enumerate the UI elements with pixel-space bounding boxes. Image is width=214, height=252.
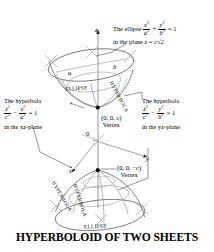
callout-ellipse-lead: The ellipse [113, 25, 141, 32]
ellipse-term-1: x2 a2 [143, 22, 150, 36]
callout-ellipse-plane-eq: z = c√2 [144, 38, 164, 45]
leader-hyperbola-left-lower [33, 127, 72, 168]
semi-axis-b-label: b [113, 63, 116, 70]
semi-axis-a-label: a [68, 69, 71, 76]
callout-ellipse-plane-text: in the plane [113, 38, 143, 45]
callout-hyperbola-left-equation: z2 c2 − x2 a2 = 1 [4, 106, 42, 120]
leader-ellipse-callout [96, 44, 126, 56]
upper-vertex-point: (0, 0, c) [101, 114, 122, 121]
callout-ellipse-line2: in the plane z = c√2 [113, 38, 177, 45]
label-ellipse-bottom: ELLIPSE [84, 223, 107, 230]
callout-hyperbola-right: The hyperbola z2 c2 − y2 b2 = 1 in the y… [142, 97, 180, 130]
upper-meridian-inner-1 [62, 79, 98, 108]
upper-meridian-inner-3 [91, 83, 98, 108]
semi-axis-a-segment [56, 65, 91, 72]
x-axis [72, 143, 95, 172]
hyp-left-equals: = 1 [28, 109, 38, 116]
upper-vertex-label: (0, 0, c) Vertex [101, 114, 122, 128]
hyp-right-term-1: z2 c2 [142, 106, 149, 120]
hyp-right-equals: = 1 [166, 109, 176, 116]
ellipse-plus-sign: + [152, 25, 157, 32]
upper-vertex-dot [96, 106, 100, 110]
y-axis [93, 140, 147, 157]
callout-ellipse-top: The ellipse x2 a2 + y2 b2 = 1 in the pla… [113, 22, 177, 46]
callout-hyperbola-right-plane: in the yz-plane [142, 123, 180, 130]
leader-hyperbola-left-upper [70, 103, 84, 108]
lower-vertex-point: (0, 0, −c) [117, 164, 141, 171]
lower-vertex-label: (0, 0, −c) Vertex [117, 164, 141, 178]
hyp-right-term-2: y2 b2 [157, 106, 164, 120]
hyp-left-term-1: z2 c2 [4, 106, 11, 120]
semi-axis-b-segment [91, 59, 126, 65]
y-axis-label: y [146, 155, 149, 162]
hyp-right-minus-sign: − [150, 109, 155, 116]
leader-hyperbola-right-upper [124, 92, 142, 99]
lower-meridian-inner-2 [98, 170, 104, 221]
lower-vertex-word: Vertex [121, 171, 138, 178]
x-axis-negative-stub [94, 134, 104, 146]
ellipse-equals: = 1 [167, 25, 177, 32]
hyp-left-term-2: x2 a2 [19, 106, 26, 120]
callout-hyperbola-left-plane: in the xz-plane [4, 123, 42, 130]
y-axis-negative-stub [82, 135, 98, 140]
callout-ellipse-line1: The ellipse x2 a2 + y2 b2 = 1 [113, 22, 177, 36]
origin-label: 0 [86, 130, 89, 137]
lower-vertex-dot [96, 168, 100, 172]
x-axis-label: x [69, 167, 72, 174]
callout-hyperbola-right-equation: z2 c2 − y2 b2 = 1 [142, 106, 180, 120]
hyp-left-minus-sign: − [12, 109, 17, 116]
callout-hyperbola-left: The hyperbola z2 c2 − x2 a2 = 1 in the x… [4, 97, 42, 130]
ellipse-term-2: y2 b2 [158, 22, 165, 36]
figure-title: HYPERBOLOID OF TWO SHEETS [0, 231, 214, 244]
upper-vertex-word: Vertex [103, 121, 120, 128]
z-axis-label: z [95, 26, 98, 33]
